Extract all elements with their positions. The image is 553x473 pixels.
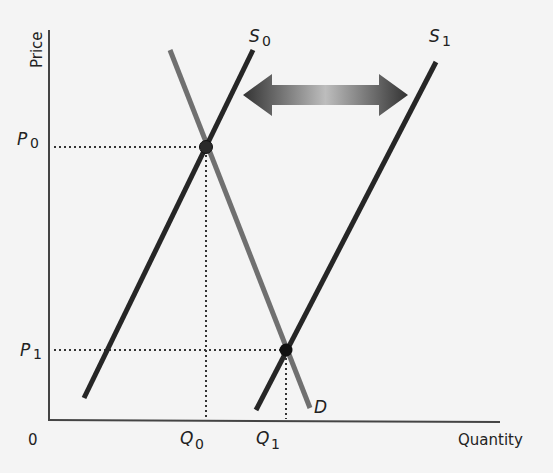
svg-text:0: 0 [195, 436, 204, 452]
svg-text:Q: Q [180, 428, 193, 448]
label-d: D [314, 397, 327, 417]
equilibrium-point-e0 [200, 141, 213, 154]
svg-text:0: 0 [30, 135, 39, 151]
svg-text:1: 1 [271, 436, 280, 452]
svg-text:1: 1 [442, 33, 451, 49]
svg-text:S: S [249, 26, 260, 46]
origin-label: 0 [28, 431, 38, 449]
svg-text:Q: Q [256, 428, 269, 448]
chart-background [0, 0, 553, 473]
svg-text:0: 0 [262, 33, 271, 49]
supply-demand-chart: Price Quantity 0 S 0 S 1 D P 0 P 1 Q 0 Q [0, 0, 553, 473]
y-axis-label: Price [28, 31, 46, 68]
svg-text:1: 1 [33, 346, 42, 362]
svg-text:S: S [429, 26, 440, 46]
svg-text:P: P [20, 340, 31, 360]
equilibrium-point-e1 [280, 344, 293, 357]
svg-text:P: P [17, 129, 28, 149]
x-axis-label: Quantity [458, 431, 523, 449]
